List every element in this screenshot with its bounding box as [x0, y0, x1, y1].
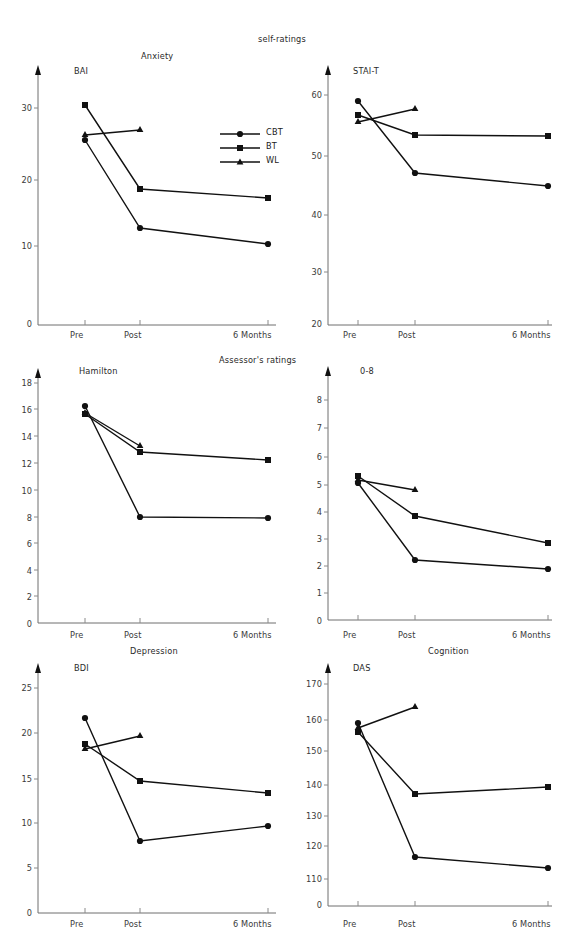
y-tick-label: 30 — [4, 103, 32, 113]
y-tick-label: 20 — [4, 728, 32, 738]
y-tick-label: 150 — [290, 746, 322, 756]
plot-area-hamilton — [0, 345, 290, 645]
x-tick-label: Post — [398, 330, 416, 340]
y-tick-label: 4 — [294, 507, 322, 517]
legend-swatch-square-icon — [218, 142, 264, 154]
y-tick-label: 5 — [4, 863, 32, 873]
x-tick-label: Pre — [343, 330, 356, 340]
x-tick-label: Pre — [343, 630, 356, 640]
y-tick-label: 16 — [4, 405, 32, 415]
y-tick-label: 170 — [290, 679, 322, 689]
legend-label-bt: BT — [266, 141, 277, 151]
x-tick-label: Pre — [70, 330, 83, 340]
y-tick-label: 4 — [4, 566, 32, 576]
y-tick-label: 0 — [4, 908, 32, 918]
x-tick-label: Post — [124, 330, 142, 340]
y-tick-label-zero: 0 — [290, 900, 322, 910]
y-tick-label: 6 — [294, 452, 322, 462]
x-tick-label: Post — [124, 919, 142, 929]
y-tick-label: 20 — [4, 175, 32, 185]
y-tick-label: 10 — [4, 818, 32, 828]
chart-panel-das: DAS 170 160 150 140 130 120 110 0 Pre Po… — [290, 645, 581, 944]
plot-area-bai — [0, 0, 290, 345]
x-tick-label: Pre — [70, 630, 83, 640]
y-tick-label: 18 — [4, 378, 32, 388]
plot-area-stai-t — [290, 0, 581, 345]
y-tick-label: 8 — [294, 395, 322, 405]
y-tick-label: 130 — [290, 811, 322, 821]
y-tick-label: 6 — [4, 539, 32, 549]
x-tick-label: 6 Months — [233, 630, 272, 640]
x-tick-label: 6 Months — [512, 630, 551, 640]
y-tick-label: 0 — [4, 619, 32, 629]
y-tick-label: 15 — [4, 774, 32, 784]
legend-swatch-circle-icon — [218, 128, 264, 140]
x-tick-label: Post — [398, 919, 416, 929]
x-tick-label: 6 Months — [512, 330, 551, 340]
chart-panel-stai-t: STAI-T 60 50 40 30 20 Pre Post 6 Months — [290, 0, 581, 345]
chart-title-bdi: BDI — [74, 663, 89, 673]
y-tick-label: 1 — [294, 588, 322, 598]
chart-panel-zero-to-eight: 0-8 8 7 6 5 4 3 2 1 0 Pre Post 6 Months — [290, 345, 581, 645]
y-tick-label: 10 — [4, 241, 32, 251]
y-tick-label: 120 — [290, 841, 322, 851]
y-tick-label: 3 — [294, 534, 322, 544]
y-tick-label: 5 — [294, 480, 322, 490]
chart-title-stai-t: STAI-T — [353, 66, 379, 76]
figure-panel-grid: self-ratings Assessor's ratings Anxiety … — [0, 0, 581, 944]
y-tick-label: 12 — [4, 459, 32, 469]
chart-title-hamilton: Hamilton — [79, 366, 118, 376]
y-tick-label: 2 — [294, 561, 322, 571]
x-tick-label: Pre — [70, 919, 83, 929]
chart-panel-bai: BAI 30 20 10 0 Pre Post 6 Months — [0, 0, 290, 345]
chart-panel-bdi: BDI 25 20 15 10 5 0 Pre Post 6 Months — [0, 645, 290, 944]
y-tick-label: 40 — [294, 210, 322, 220]
y-tick-label: 2 — [4, 592, 32, 602]
y-tick-label: 60 — [294, 90, 322, 100]
x-tick-label: Post — [398, 630, 416, 640]
legend-label-wl: WL — [266, 155, 279, 165]
y-tick-label: 25 — [4, 683, 32, 693]
y-tick-label: 10 — [4, 486, 32, 496]
x-tick-label: 6 Months — [512, 919, 551, 929]
y-tick-label: 140 — [290, 780, 322, 790]
legend-entry-wl: WL — [218, 156, 264, 168]
y-tick-label: 50 — [294, 151, 322, 161]
x-tick-label: 6 Months — [233, 330, 272, 340]
chart-title-bai: BAI — [74, 66, 88, 76]
plot-area-das — [290, 645, 581, 944]
y-tick-label: 14 — [4, 432, 32, 442]
x-tick-label: 6 Months — [233, 919, 272, 929]
y-tick-label: 8 — [4, 513, 32, 523]
legend-swatch-triangle-icon — [218, 156, 264, 168]
chart-title-zero-to-eight: 0-8 — [360, 366, 374, 376]
x-tick-label: Pre — [343, 919, 356, 929]
y-tick-label: 7 — [294, 423, 322, 433]
legend-label-cbt: CBT — [266, 127, 283, 137]
chart-panel-hamilton: Hamilton 18 16 14 12 10 8 6 4 2 0 Pre Po… — [0, 345, 290, 645]
y-tick-label: 110 — [290, 874, 322, 884]
x-tick-label: Post — [124, 630, 142, 640]
chart-title-das: DAS — [353, 663, 371, 673]
y-tick-label: 160 — [290, 715, 322, 725]
y-tick-label: 0 — [4, 319, 32, 329]
y-tick-label: 0 — [294, 616, 322, 626]
legend-entry-bt: BT — [218, 142, 264, 154]
y-tick-label: 20 — [294, 319, 322, 329]
y-tick-label: 30 — [294, 267, 322, 277]
plot-area-bdi — [0, 645, 290, 944]
legend-entry-cbt: CBT — [218, 128, 264, 140]
plot-area-zero-to-eight — [290, 345, 581, 645]
